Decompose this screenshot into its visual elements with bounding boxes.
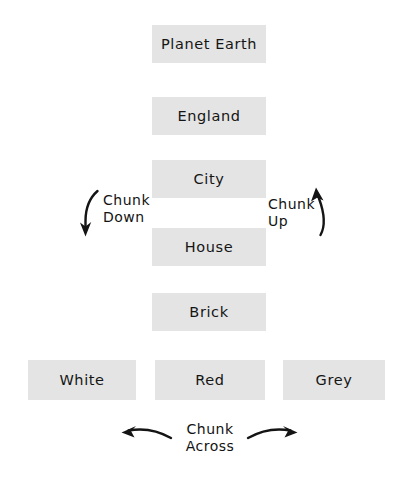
annotation-chunk-down-line2: Down bbox=[103, 209, 150, 226]
node-brick[interactable]: Brick bbox=[152, 293, 266, 331]
chunking-diagram: Planet Earth England City House Brick Wh… bbox=[0, 0, 407, 486]
annotation-chunk-up-line1: Chunk bbox=[268, 196, 315, 213]
annotation-chunk-across: Chunk Across bbox=[175, 421, 245, 455]
node-england[interactable]: England bbox=[152, 97, 266, 135]
node-house[interactable]: House bbox=[152, 228, 266, 266]
node-label: Red bbox=[195, 372, 224, 388]
annotation-chunk-up: Chunk Up bbox=[268, 196, 315, 230]
node-label: House bbox=[185, 239, 233, 255]
annotation-chunk-across-line1: Chunk bbox=[175, 421, 245, 438]
node-label: Brick bbox=[189, 304, 228, 320]
curved-arrow-right-icon bbox=[248, 426, 298, 438]
node-label: City bbox=[194, 171, 225, 187]
node-label: England bbox=[177, 108, 240, 124]
curved-arrow-down-icon bbox=[80, 191, 98, 237]
annotation-chunk-down: Chunk Down bbox=[103, 192, 150, 226]
node-grey[interactable]: Grey bbox=[283, 360, 385, 400]
node-planet-earth[interactable]: Planet Earth bbox=[152, 25, 266, 63]
node-label: Planet Earth bbox=[161, 36, 257, 52]
node-white[interactable]: White bbox=[28, 360, 136, 400]
annotation-chunk-across-line2: Across bbox=[175, 438, 245, 455]
node-city[interactable]: City bbox=[152, 160, 266, 198]
curved-arrow-left-icon bbox=[122, 426, 172, 438]
annotation-chunk-up-line2: Up bbox=[268, 213, 315, 230]
node-label: White bbox=[59, 372, 104, 388]
node-label: Grey bbox=[316, 372, 353, 388]
node-red[interactable]: Red bbox=[155, 360, 265, 400]
annotation-chunk-down-line1: Chunk bbox=[103, 192, 150, 209]
